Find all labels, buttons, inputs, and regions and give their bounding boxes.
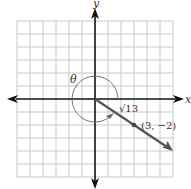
y-axis-label: y — [92, 0, 100, 10]
coordinate-plane-figure: x y θ (3, −2) √13 — [0, 0, 191, 189]
angle-theta-label: θ — [70, 73, 77, 86]
radius-label: √13 — [119, 103, 138, 114]
x-axis-label: x — [185, 93, 191, 106]
terminal-point-label: (3, −2) — [141, 120, 176, 131]
terminal-point-marker — [132, 123, 137, 128]
